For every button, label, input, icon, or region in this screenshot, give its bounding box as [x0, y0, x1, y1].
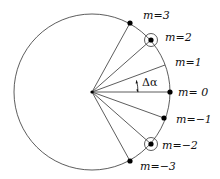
- order-rays: [92, 23, 170, 161]
- ray-line: [92, 92, 130, 161]
- order-dot: [148, 37, 153, 42]
- center-point: [90, 90, 93, 93]
- ray-line: [92, 23, 130, 92]
- ray-line: [92, 92, 164, 118]
- delta-alpha-label: Δα: [142, 76, 158, 89]
- ray-line: [92, 92, 151, 144]
- order-dot: [148, 141, 153, 146]
- order-label: m=3: [143, 9, 170, 22]
- order-label: m=1: [175, 56, 202, 69]
- order-dot: [127, 158, 132, 163]
- order-dot: [167, 89, 172, 94]
- order-label: m= 0: [178, 86, 208, 99]
- delta-alpha-annotation: Δα: [136, 76, 158, 93]
- order-label: m=2: [165, 31, 192, 44]
- order-label: m=−1: [176, 113, 212, 126]
- order-dot: [127, 20, 132, 25]
- diffraction-order-diagram: Δα m=3m=2m=1m= 0m=−1m=−2m=−3: [0, 0, 220, 179]
- order-label: m=−3: [140, 160, 176, 173]
- order-dot: [161, 115, 166, 120]
- order-label: m=−2: [162, 139, 198, 152]
